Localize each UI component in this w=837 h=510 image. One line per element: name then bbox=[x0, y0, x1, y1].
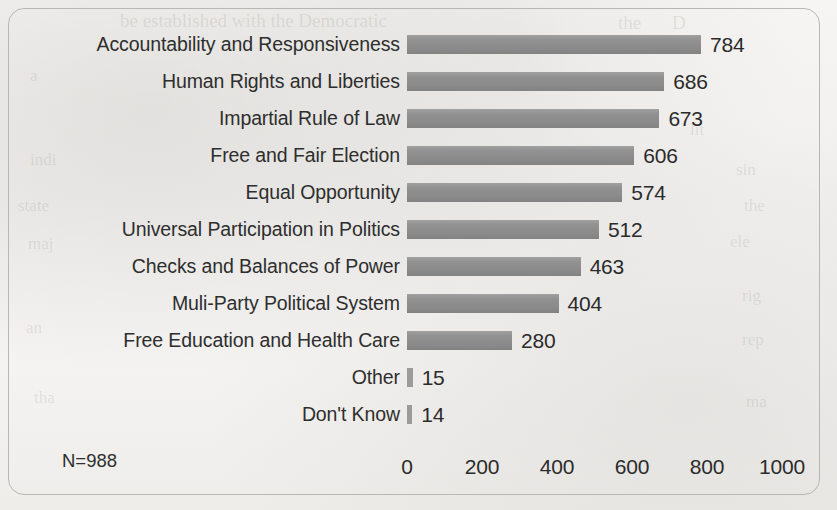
category-label: Other bbox=[352, 359, 400, 396]
bar-value-label: 686 bbox=[673, 63, 707, 100]
bar bbox=[407, 35, 701, 54]
bar bbox=[407, 183, 622, 202]
bar-row: Accountability and Responsiveness784 bbox=[0, 26, 837, 63]
bar-value-label: 606 bbox=[643, 137, 677, 174]
x-axis-tick-label: 400 bbox=[540, 455, 574, 479]
bar bbox=[407, 109, 659, 128]
bar-row: Other15 bbox=[0, 359, 837, 396]
category-label: Universal Participation in Politics bbox=[122, 211, 400, 248]
bar-value-label: 14 bbox=[421, 396, 444, 433]
x-axis: 02004006008001000 bbox=[0, 455, 837, 495]
category-label: Accountability and Responsiveness bbox=[97, 26, 400, 63]
bar-value-label: 784 bbox=[710, 26, 744, 63]
x-axis-tick-label: 600 bbox=[615, 455, 649, 479]
chart-screenshot: be established with the DemocratictheDal… bbox=[0, 0, 837, 510]
x-axis-tick-label: 200 bbox=[465, 455, 499, 479]
category-label: Impartial Rule of Law bbox=[219, 100, 400, 137]
bar-row: Equal Opportunity574 bbox=[0, 174, 837, 211]
category-label: Checks and Balances of Power bbox=[132, 248, 400, 285]
sample-size-annotation: N=988 bbox=[62, 450, 117, 472]
bar-row: Free Education and Health Care280 bbox=[0, 322, 837, 359]
bar-value-label: 574 bbox=[631, 174, 665, 211]
bar-row: Muli-Party Political System404 bbox=[0, 285, 837, 322]
bar bbox=[407, 294, 559, 313]
bar-row: Impartial Rule of Law673 bbox=[0, 100, 837, 137]
bar-row: Checks and Balances of Power463 bbox=[0, 248, 837, 285]
bar-row: Don't Know14 bbox=[0, 396, 837, 433]
bar-row: Free and Fair Election606 bbox=[0, 137, 837, 174]
bar bbox=[407, 368, 413, 387]
bar bbox=[407, 146, 634, 165]
x-axis-tick-label: 800 bbox=[690, 455, 724, 479]
bar-chart-plot-area: Accountability and Responsiveness784Huma… bbox=[0, 0, 837, 510]
bar-value-label: 404 bbox=[568, 285, 602, 322]
bar bbox=[407, 331, 512, 350]
bar bbox=[407, 220, 599, 239]
category-label: Free and Fair Election bbox=[210, 137, 400, 174]
bar-value-label: 673 bbox=[668, 100, 702, 137]
category-label: Muli-Party Political System bbox=[172, 285, 400, 322]
x-axis-tick-label: 0 bbox=[401, 455, 412, 479]
category-label: Equal Opportunity bbox=[246, 174, 400, 211]
bar-value-label: 280 bbox=[521, 322, 555, 359]
bar bbox=[407, 72, 664, 91]
bar-row: Universal Participation in Politics512 bbox=[0, 211, 837, 248]
bar-value-label: 15 bbox=[422, 359, 445, 396]
category-label: Don't Know bbox=[302, 396, 400, 433]
x-axis-tick-label: 1000 bbox=[759, 455, 805, 479]
category-label: Human Rights and Liberties bbox=[162, 63, 400, 100]
bar bbox=[407, 405, 412, 424]
bar bbox=[407, 257, 581, 276]
bar-value-label: 512 bbox=[608, 211, 642, 248]
bar-value-label: 463 bbox=[590, 248, 624, 285]
category-label: Free Education and Health Care bbox=[123, 322, 400, 359]
bar-row: Human Rights and Liberties686 bbox=[0, 63, 837, 100]
